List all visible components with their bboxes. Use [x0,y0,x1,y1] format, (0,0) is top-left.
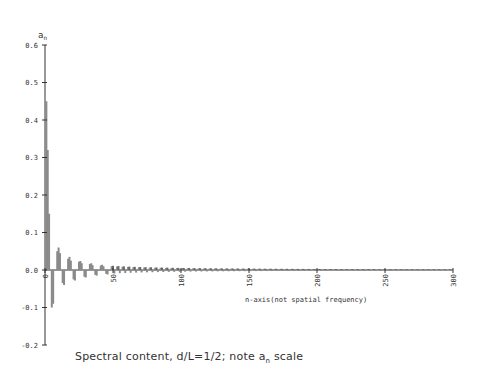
bar [146,270,148,272]
x-tick-label: 100 [178,274,186,287]
bar [326,270,328,271]
bar [433,269,435,270]
bar [226,268,228,270]
bar [173,270,175,272]
bar [222,270,224,271]
y-tick-label: -0.2 [21,342,38,350]
bar [347,270,349,271]
bar [233,270,235,271]
bar [418,270,420,271]
x-tick-label: 250 [382,274,390,287]
bar [330,269,332,270]
bar [434,270,436,271]
bar [281,269,283,270]
caption-text-end: scale [270,350,303,363]
bar [379,269,381,270]
bar [194,268,196,270]
y-tick-label: 0.2 [25,192,38,200]
spectral-chart: -0.2-0.10.00.10.20.30.40.50.605010015020… [0,0,477,378]
bar [204,268,206,270]
bar [407,270,409,271]
bar [134,267,136,270]
bar [188,268,190,270]
bar [438,269,440,270]
bar [177,268,179,270]
bar [340,269,342,270]
bar [351,269,353,270]
bar [445,270,447,271]
bar [184,270,186,272]
bar [64,270,66,271]
bar [75,270,77,271]
bar [368,269,370,270]
bar [139,267,141,270]
bar [319,269,321,270]
bar [151,270,153,272]
x-tick-label: 150 [246,274,254,287]
bar [396,270,398,271]
x-tick-label: 50 [110,274,118,282]
bar [172,268,174,270]
bar [161,268,163,270]
bar [331,270,333,271]
bar [195,270,197,272]
bar [428,269,430,270]
y-tick-label: 0.5 [25,79,38,87]
bar [113,270,115,273]
bar [74,270,76,281]
bar [449,269,451,270]
bar [135,270,137,273]
bar [444,269,446,270]
y-axis-label: an [38,30,47,41]
bar [429,270,431,271]
bar [413,270,415,271]
bar [211,270,213,271]
bar [124,270,126,273]
bar [259,269,261,270]
bar [264,269,266,270]
bar [238,270,240,271]
y-tick-label: 0.1 [25,229,38,237]
bar [54,270,56,271]
bar [451,270,453,271]
bar [85,270,87,278]
bar [293,270,295,271]
bar [228,270,230,271]
bar [364,270,366,271]
bar [92,265,94,270]
bar [128,267,130,270]
bar [102,266,104,270]
bar [282,270,284,271]
bar [97,270,99,271]
bar [107,270,109,275]
bar [308,269,310,270]
bar [440,270,442,271]
x-tick-label: 0 [42,274,50,278]
bar [48,214,50,270]
bar [156,267,158,270]
bar [70,261,72,270]
bar [292,269,294,270]
bar [287,270,289,271]
bar [150,267,152,270]
bar [400,269,402,270]
bar [108,270,110,271]
bar [423,270,425,271]
bar [373,269,375,270]
bar [199,268,201,270]
bar [358,270,360,271]
bar [141,270,143,272]
bar [346,269,348,270]
bar [313,269,315,270]
bar [59,253,61,270]
bar [270,269,272,270]
bar [253,269,255,270]
bar [130,270,132,273]
bar [369,270,371,271]
bar [297,269,299,270]
ticks: -0.2-0.10.00.10.20.30.40.50.605010015020… [21,42,457,350]
bar [190,270,192,272]
bar [302,269,304,270]
bar [86,270,88,271]
bar [402,270,404,271]
